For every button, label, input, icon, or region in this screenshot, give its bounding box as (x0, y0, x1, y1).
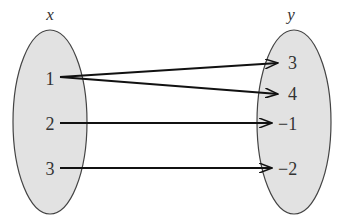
domain-value: 1 (46, 69, 55, 89)
domain-label: x (45, 5, 54, 24)
mapping-diagram: x y 1 2 3 3 4 −1 −2 (0, 0, 340, 216)
range-value: −2 (278, 159, 297, 179)
range-value: 4 (288, 84, 297, 104)
domain-value: 3 (46, 159, 55, 179)
range-value: 3 (288, 53, 297, 73)
domain-value: 2 (46, 114, 55, 134)
range-value: −1 (278, 114, 297, 134)
arrow-1-to-4 (60, 77, 278, 94)
arrow-1-to-3 (60, 63, 278, 77)
range-label: y (285, 5, 295, 24)
